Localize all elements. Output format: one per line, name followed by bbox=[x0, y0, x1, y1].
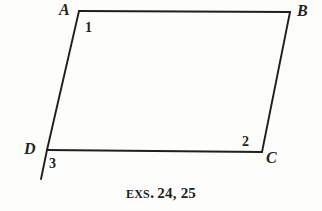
vertex-label-b: B bbox=[297, 3, 308, 19]
angle-label-2: 2 bbox=[242, 135, 249, 149]
parallelogram-diagram bbox=[0, 0, 322, 211]
vertex-label-d: D bbox=[24, 141, 36, 157]
edge-da-extension bbox=[41, 150, 47, 179]
caption-abbreviation: Exs. bbox=[126, 183, 154, 202]
geometry-figure-panel: A B C D 1 2 3 Exs.24, 25 bbox=[0, 0, 322, 211]
angle-label-1: 1 bbox=[85, 21, 92, 35]
edge-cd bbox=[47, 150, 262, 152]
vertex-label-a: A bbox=[59, 2, 70, 18]
vertex-label-c: C bbox=[266, 150, 277, 166]
caption-exercise-numbers: 24, 25 bbox=[157, 185, 196, 201]
angle-label-3: 3 bbox=[49, 157, 56, 171]
edge-bc bbox=[262, 12, 290, 152]
edge-da bbox=[47, 11, 79, 150]
edge-ab bbox=[79, 11, 290, 12]
figure-caption: Exs.24, 25 bbox=[0, 184, 322, 201]
